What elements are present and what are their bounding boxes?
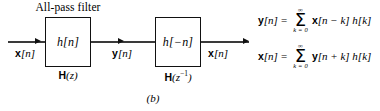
transfer-function-z-arg: (z) [66, 69, 78, 81]
equation-1-sum-lower-limit: k = 0 [293, 27, 308, 34]
equation-1-rhs: x[n − k] h[k] [310, 14, 371, 26]
output-arrowhead [243, 38, 249, 44]
block-h-n: h[n] [45, 17, 91, 67]
block-h-minus-n-transfer-label: H(z−1) [141, 69, 215, 83]
transfer-function-close-paren: ) [188, 71, 192, 83]
equation-2-equals: = [278, 50, 291, 62]
equation-1-lhs: y[n] [258, 14, 278, 26]
signal-label-output: x[n] [196, 47, 240, 59]
signal-index-input: [n] [21, 47, 35, 59]
transfer-function-z-arg-inverse: (z [172, 71, 180, 83]
equation-2-lhs-index: [n] [264, 50, 278, 62]
equation-2-rhs-expression: [n + k] h[k] [318, 50, 372, 62]
signal-label-input: x[n] [3, 47, 47, 59]
block-h-minus-n-label: h[−n] [163, 35, 193, 50]
block-h-n-label: h[n] [57, 35, 79, 50]
equation-1-summation: ∞ Σ k = 0 [293, 7, 308, 33]
transfer-function-h-symbol-inverse: H [164, 71, 172, 83]
output-wire [201, 41, 249, 42]
equation-1-rhs-expression: [n − k] h[k] [318, 14, 372, 26]
signal-label-intermediate: y[n] [100, 47, 144, 59]
equation-1-lhs-index: [n] [264, 14, 278, 26]
equation-convolution-forward: y[n] = ∞ Σ k = 0 x[n − k] h[k] [258, 2, 380, 38]
block-h-minus-n: h[−n] [155, 17, 201, 67]
block-diagram-figure: All-pass filter h[n] H(z) h[−n] H(z−1) x… [0, 0, 380, 111]
equation-2-lhs: x[n] [258, 50, 278, 62]
input-arrowhead [35, 38, 41, 44]
equation-1-equals: = [278, 14, 291, 26]
intermediate-arrowhead [118, 38, 124, 44]
transfer-function-h-symbol: H [58, 69, 66, 81]
equation-2-summation: ∞ Σ k = 0 [293, 43, 308, 69]
equation-convolution-inverse: x[n] = ∞ Σ k = 0 y[n + k] h[k] [258, 38, 380, 74]
subfigure-caption: (b) [108, 92, 198, 104]
equation-group: y[n] = ∞ Σ k = 0 x[n − k] h[k] x[n] = ∞ … [258, 2, 380, 74]
equation-2-sum-lower-limit: k = 0 [293, 63, 308, 70]
equation-2-rhs: y[n + k] h[k] [310, 50, 371, 62]
all-pass-filter-title: All-pass filter [0, 1, 136, 13]
signal-index-intermediate: [n] [118, 47, 132, 59]
transfer-function-exponent: −1 [180, 69, 188, 78]
signal-index-output: [n] [214, 47, 228, 59]
block-h-n-transfer-label: H(z) [33, 69, 103, 81]
